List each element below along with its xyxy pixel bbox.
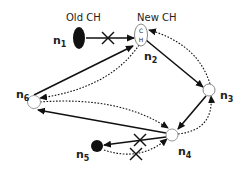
edge-n4-n6	[38, 110, 166, 133]
edge-n2-n6-dotted	[40, 45, 139, 98]
old-ch-label: Old CH	[66, 12, 101, 23]
cross-icon	[130, 148, 142, 160]
node-n5	[91, 140, 103, 152]
edge-n4-n3-dotted	[178, 96, 211, 134]
edge-n3-n2-dotted	[149, 30, 210, 84]
label-n6: n6	[16, 88, 30, 103]
edge-n4-n5	[104, 137, 166, 145]
edge-n3-n4	[178, 96, 206, 129]
label-n3: n3	[220, 89, 233, 104]
label-n4: n4	[178, 145, 192, 160]
node-n4	[166, 129, 178, 141]
network-diagram: C H Old CH New CH n1 n2 n3 n4 n5 n6	[0, 0, 246, 171]
new-ch-label: New CH	[137, 12, 177, 23]
node-n3	[203, 84, 215, 96]
node-n6	[28, 96, 41, 109]
label-n2: n2	[144, 50, 157, 65]
solid-edges	[34, 38, 206, 145]
node-n1	[73, 27, 85, 49]
label-n5: n5	[76, 148, 90, 163]
ch-label-bottom: H	[139, 36, 144, 43]
ch-label-top: C	[139, 27, 143, 34]
label-n1: n1	[53, 34, 67, 49]
diagram-canvas: C H Old CH New CH n1 n2 n3 n4 n5 n6	[0, 0, 246, 171]
